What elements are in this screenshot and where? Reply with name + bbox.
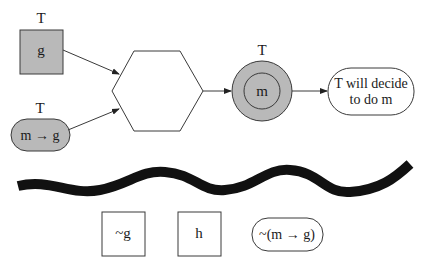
conclusion-line-2: to do m bbox=[350, 92, 393, 107]
g-text: g bbox=[37, 42, 45, 58]
hexagon-node bbox=[112, 51, 203, 131]
not-g-text: ~g bbox=[115, 225, 131, 241]
m-implies-g-owner-label: T bbox=[35, 100, 44, 116]
g-node: T g bbox=[20, 10, 63, 74]
g-owner-label: T bbox=[36, 10, 45, 26]
m-text: m bbox=[256, 83, 268, 99]
h-node: h bbox=[178, 212, 221, 256]
not-m-implies-g-node: ~(m → g) bbox=[252, 218, 323, 251]
conclusion-node: T will decide to do m bbox=[328, 68, 414, 115]
not-m-implies-g-text: ~(m → g) bbox=[259, 227, 315, 243]
m-owner-label: T bbox=[257, 42, 266, 58]
diagram-canvas: T g T m → g T m T will decide to do m ~g… bbox=[0, 0, 429, 270]
arrow-m-implies-g-to-hexagon bbox=[68, 109, 119, 130]
wavy-divider bbox=[18, 164, 410, 192]
h-text: h bbox=[195, 225, 203, 241]
m-implies-g-node: T m → g bbox=[11, 100, 70, 151]
conclusion-line-1: T will decide bbox=[334, 76, 408, 91]
not-g-node: ~g bbox=[102, 212, 145, 256]
m-node: T m bbox=[232, 42, 292, 121]
arrow-g-to-hexagon bbox=[63, 50, 119, 74]
m-implies-g-text: m → g bbox=[21, 128, 60, 143]
